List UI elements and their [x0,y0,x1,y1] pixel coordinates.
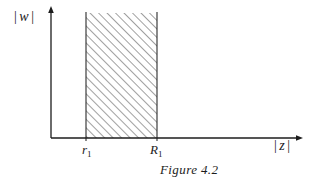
x-axis-label-right-bar: | [287,138,290,153]
x-axis-arrowhead-icon [296,135,303,141]
y-axis [48,6,54,138]
x-axis-label: |z| [274,139,291,153]
x-tick-label-r1-subscript: 1 [87,149,92,159]
hatch-fill [86,13,157,138]
x-axis-label-variable: z [277,138,287,153]
x-tick-label-R1-subscript: 1 [158,149,163,159]
x-tick-label-r1: r1 [82,143,92,156]
y-axis-label-variable: w [17,9,31,24]
y-axis-arrowhead-icon [48,6,54,13]
x-tick-label-R1-base: R [150,142,158,157]
x-tick-label-R1: R1 [150,143,162,156]
figure-canvas [0,0,332,186]
y-axis-label-right-bar: | [31,9,34,24]
y-axis-label: |w| [14,10,34,24]
figure-caption: Figure 4.2 [160,163,218,176]
hatched-region [86,12,157,141]
figure-container: |w| |z| r1 R1 Figure 4.2 [0,0,332,186]
